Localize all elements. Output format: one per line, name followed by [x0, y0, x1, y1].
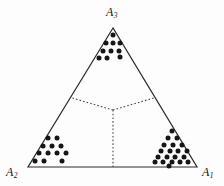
data-point [171, 143, 176, 148]
data-point [118, 41, 123, 46]
data-point [111, 41, 116, 46]
data-point [186, 160, 191, 165]
data-point [104, 41, 109, 46]
vertex-label-a3-base: A [106, 5, 113, 19]
partition-line-2 [113, 98, 156, 111]
data-point [166, 136, 171, 141]
data-point [55, 151, 60, 156]
data-point [168, 149, 173, 154]
data-point [37, 151, 42, 156]
vertex-label-a1-base: A [202, 165, 209, 179]
data-point [41, 144, 46, 149]
partition-lines [71, 98, 156, 168]
data-point [64, 151, 69, 156]
vertex-label-a1: A1 [202, 166, 213, 178]
vertex-label-a2-base: A [6, 165, 13, 179]
data-point [153, 160, 158, 165]
vertex-label-a3: A3 [106, 6, 117, 18]
data-point [55, 136, 60, 141]
data-point [101, 49, 106, 54]
data-point [162, 143, 167, 148]
data-point [178, 160, 183, 165]
data-point [117, 49, 122, 54]
data-point [46, 151, 51, 156]
data-point [161, 160, 166, 165]
data-point [105, 56, 110, 61]
data-point [182, 155, 187, 160]
data-point [109, 49, 114, 54]
cluster-near-A1 [153, 129, 191, 169]
cluster-near-A2 [33, 136, 69, 164]
data-point [170, 129, 175, 134]
data-point [97, 56, 102, 61]
vertex-label-a2: A2 [6, 166, 17, 178]
data-point [167, 164, 172, 169]
ternary-diagram-figure: A3 A2 A1 [0, 0, 224, 186]
data-point [42, 159, 47, 164]
data-point [185, 149, 190, 154]
data-point [170, 160, 175, 165]
data-point [175, 136, 180, 141]
ternary-plot-svg [0, 0, 224, 186]
data-point [173, 155, 178, 160]
data-point [176, 149, 181, 154]
data-point [33, 159, 38, 164]
data-point [180, 143, 185, 148]
partition-line-1 [71, 98, 114, 111]
data-point-clusters [33, 33, 191, 169]
data-point [59, 144, 64, 149]
vertex-label-a1-sub: 1 [210, 171, 214, 180]
data-point [159, 149, 164, 154]
vertex-label-a2-sub: 2 [14, 171, 18, 180]
data-point [50, 144, 55, 149]
data-point [165, 155, 170, 160]
data-point [46, 136, 51, 141]
data-point [111, 33, 116, 38]
data-point [60, 159, 65, 164]
vertex-label-a3-sub: 3 [114, 11, 118, 20]
data-point [156, 155, 161, 160]
data-point [118, 55, 123, 60]
